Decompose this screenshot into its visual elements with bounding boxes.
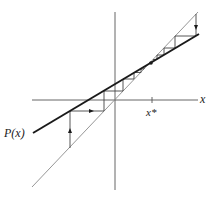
- cobweb-diagram: [0, 0, 217, 205]
- x-axis-label: x: [200, 92, 205, 107]
- arrow-right-icon: [89, 109, 94, 113]
- fixed-point-dot: [149, 61, 153, 65]
- arrow-up-icon: [68, 128, 72, 133]
- arrow-down-icon: [194, 25, 198, 30]
- function-label: P(x): [4, 126, 25, 141]
- fixed-point-label: x*: [146, 106, 156, 118]
- function-line-p-of-x: [33, 34, 199, 133]
